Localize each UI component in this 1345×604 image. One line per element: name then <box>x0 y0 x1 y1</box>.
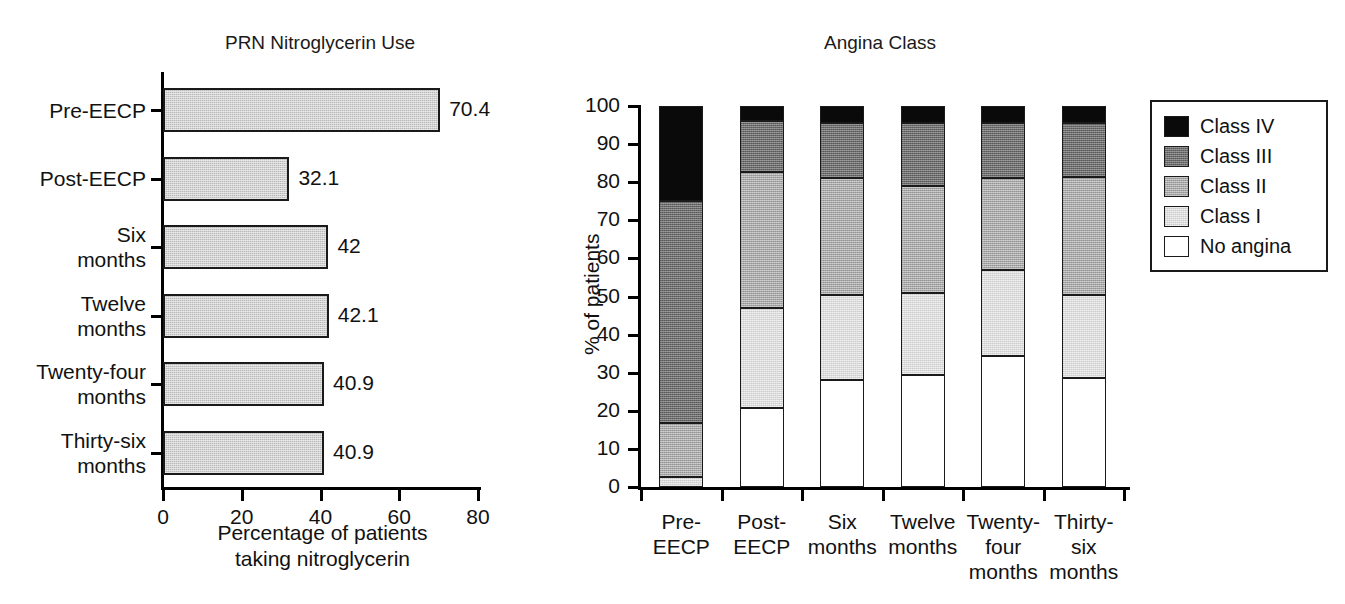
right-y-tick <box>628 410 639 413</box>
legend-item[interactable]: Class II <box>1164 171 1314 201</box>
left-x-axis-title-line1: Percentage of patients <box>150 520 495 546</box>
left-category-label: Pre-EECP <box>49 98 146 123</box>
right-y-axis-title: % of patients <box>580 234 604 355</box>
stacked-bar <box>981 106 1025 487</box>
left-category-label-line: months <box>77 316 146 341</box>
right-category-label-line: EECP <box>653 534 710 559</box>
right-category-label: Post-EECP <box>733 509 790 559</box>
stack-segment <box>981 270 1025 356</box>
right-y-tick <box>628 372 639 375</box>
left-category-label-line: Thirty-six <box>61 428 146 453</box>
stack-segment <box>981 106 1025 123</box>
legend-label: Class IV <box>1200 115 1274 138</box>
stack-segment <box>901 375 945 487</box>
left-category-label-line: Six <box>77 222 146 247</box>
left-category-label-line: Pre-EECP <box>49 98 146 123</box>
left-x-tick <box>320 490 323 501</box>
right-category-label-line: EECP <box>733 534 790 559</box>
right-category-label: Thirty-sixmonths <box>1049 509 1118 584</box>
stacked-bar <box>901 106 945 487</box>
legend: Class IVClass IIIClass IIClass INo angin… <box>1150 100 1328 272</box>
stacked-bar <box>820 106 864 487</box>
left-category-label-line: Twelve <box>77 291 146 316</box>
right-category-label: Twenty-fourmonths <box>966 509 1040 584</box>
stack-segment <box>901 106 945 123</box>
left-y-tick <box>151 178 162 181</box>
stack-segment <box>820 295 864 380</box>
bar-value-label: 40.9 <box>333 371 374 395</box>
right-x-tick <box>640 490 643 501</box>
legend-item[interactable]: Class I <box>1164 201 1314 231</box>
prn-nitroglycerin-chart: PRN Nitroglycerin Use 020406080 Pre-EECP… <box>0 0 560 604</box>
right-y-tick-label: 20 <box>597 398 620 422</box>
stack-segment <box>820 123 864 178</box>
stack-segment <box>659 106 703 201</box>
stack-segment <box>901 186 945 293</box>
right-x-tick <box>801 490 804 501</box>
legend-label: Class III <box>1200 145 1272 168</box>
right-y-tick <box>628 257 639 260</box>
left-chart-title: PRN Nitroglycerin Use <box>160 32 480 54</box>
left-category-label-line: Twenty-four <box>36 359 146 384</box>
right-y-tick-label: 70 <box>597 207 620 231</box>
legend-swatch-icon <box>1164 206 1189 227</box>
right-x-tick <box>1123 490 1126 501</box>
right-chart-title: Angina Class <box>770 32 990 54</box>
right-y-tick <box>628 486 639 489</box>
right-category-label-line: months <box>966 559 1040 584</box>
stack-segment <box>981 356 1025 487</box>
left-category-label: Post-EECP <box>40 166 146 191</box>
legend-swatch-icon <box>1164 116 1189 137</box>
angina-class-chart: Angina Class 0102030405060708090100 Pre-… <box>560 0 1345 604</box>
legend-label: No angina <box>1200 235 1291 258</box>
legend-item[interactable]: Class IV <box>1164 111 1314 141</box>
stack-segment <box>1062 106 1106 123</box>
right-y-tick-label: 30 <box>597 360 620 384</box>
right-category-label: Pre-EECP <box>653 509 710 559</box>
legend-item[interactable]: No angina <box>1164 231 1314 261</box>
bar <box>163 225 328 269</box>
right-y-tick-label: 10 <box>597 436 620 460</box>
right-y-tick-label: 80 <box>597 169 620 193</box>
right-y-tick-label: 90 <box>597 131 620 155</box>
legend-swatch-icon <box>1164 236 1189 257</box>
stack-segment <box>820 380 864 487</box>
stacked-bar <box>740 106 784 487</box>
left-x-tick <box>241 490 244 501</box>
stacked-bar <box>1062 106 1106 487</box>
stack-segment <box>820 106 864 123</box>
bar-value-label: 40.9 <box>333 440 374 464</box>
left-x-tick <box>162 490 165 501</box>
stack-segment <box>981 178 1025 269</box>
right-category-label-line: four <box>966 534 1040 559</box>
left-y-tick <box>151 315 162 318</box>
stack-segment <box>1062 123 1106 177</box>
right-y-tick <box>628 181 639 184</box>
left-y-tick <box>151 383 162 386</box>
bar-value-label: 42.1 <box>338 303 379 327</box>
stack-segment <box>820 178 864 295</box>
left-category-label-line: months <box>61 453 146 478</box>
legend-item[interactable]: Class III <box>1164 141 1314 171</box>
stack-segment <box>740 121 784 172</box>
stack-segment <box>1062 378 1106 487</box>
bar-value-label: 42 <box>337 234 360 258</box>
left-category-label: Thirty-sixmonths <box>61 428 146 478</box>
left-y-tick <box>151 452 162 455</box>
stacked-bar <box>659 106 703 487</box>
right-category-label: Twelvemonths <box>888 509 957 559</box>
legend-swatch-icon <box>1164 146 1189 167</box>
right-y-tick <box>628 334 639 337</box>
legend-label: Class II <box>1200 175 1267 198</box>
right-y-tick-label: 0 <box>608 474 620 498</box>
right-category-label-line: six <box>1049 534 1118 559</box>
stack-segment <box>740 308 784 408</box>
left-y-tick <box>151 246 162 249</box>
right-y-tick <box>628 143 639 146</box>
right-category-label-line: Twenty- <box>966 509 1040 534</box>
left-y-tick <box>151 109 162 112</box>
right-y-tick <box>628 219 639 222</box>
left-x-tick <box>398 490 401 501</box>
right-category-label-line: Twelve <box>888 509 957 534</box>
stack-segment <box>1062 295 1106 378</box>
